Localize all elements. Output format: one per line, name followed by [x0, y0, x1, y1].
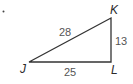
triangle-jkl: [29, 18, 111, 62]
side-label-jl: 25: [64, 66, 76, 78]
bullet-marker: [3, 11, 5, 13]
vertex-label-k: K: [110, 3, 119, 17]
vertex-label-j: J: [19, 62, 27, 76]
vertex-label-l: L: [111, 63, 118, 77]
triangle-diagram: J K L 28 13 25: [0, 0, 133, 84]
side-label-jk: 28: [59, 26, 71, 38]
side-label-kl: 13: [115, 35, 127, 47]
